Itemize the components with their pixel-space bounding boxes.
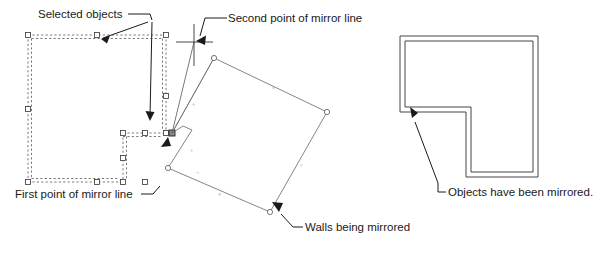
label-objects-mirrored: Objects have been mirrored. xyxy=(448,186,593,198)
vertex-circle-icon[interactable] xyxy=(165,55,329,214)
leader-lines xyxy=(103,14,446,227)
grip-square-icon[interactable] xyxy=(26,33,169,185)
preview-wall-right xyxy=(270,112,327,212)
svg-text:f: f xyxy=(196,170,201,174)
edge-midpoint-marks: a b c d e f xyxy=(189,84,305,196)
preview-wall-top xyxy=(214,58,327,112)
label-second-point: Second point of mirror line xyxy=(228,12,362,24)
svg-text:d: d xyxy=(218,191,222,196)
crosshair-icon xyxy=(176,24,213,66)
svg-text:c: c xyxy=(299,163,304,167)
leader-arrow-icon xyxy=(101,36,418,213)
leader-second-point xyxy=(200,18,227,36)
mirror-preview-panel[interactable] xyxy=(168,58,327,212)
selected-wall-notch-dashed[interactable] xyxy=(123,133,166,182)
leader-selected-objects-arm2 xyxy=(150,22,152,117)
mirror-command-diagram: a b c d e f xyxy=(0,0,607,254)
selected-wall-outer-dashed[interactable] xyxy=(28,35,166,182)
label-walls-being-mirrored: Walls being mirrored xyxy=(305,221,410,233)
svg-text:e: e xyxy=(189,147,195,152)
selected-walls-panel xyxy=(26,33,176,185)
mirrored-result-panel[interactable] xyxy=(400,36,538,177)
label-selected-objects: Selected objects xyxy=(38,8,123,20)
svg-text:b: b xyxy=(191,101,197,106)
leader-objects-mirrored-arm xyxy=(415,122,438,183)
leader-objects-mirrored xyxy=(438,183,446,192)
label-first-point: First point of mirror line xyxy=(15,188,133,200)
preview-wall-bottom xyxy=(168,168,270,212)
preview-wall-notch-h xyxy=(183,126,192,130)
mirror-line xyxy=(172,42,194,133)
leader-first-point xyxy=(141,186,160,194)
mirror-line-group xyxy=(172,24,214,133)
preview-wall-left-upper xyxy=(172,58,214,133)
leader-selected-objects-tail xyxy=(128,14,152,20)
leader-walls-being-mirrored xyxy=(281,214,303,227)
mirrored-wall-inner xyxy=(405,41,533,172)
